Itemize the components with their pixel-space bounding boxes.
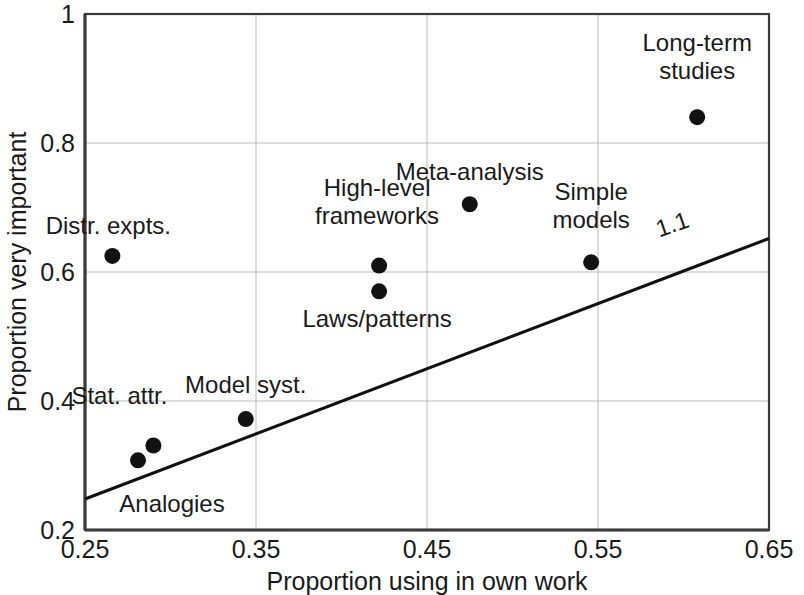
data-point-label: Stat. attr. — [71, 382, 167, 409]
gridlines — [85, 14, 769, 530]
y-tick-label: 0.2 — [40, 516, 75, 544]
y-tick-label: 1 — [61, 0, 75, 28]
data-point — [583, 254, 599, 270]
data-point — [238, 411, 254, 427]
x-tick-label: 0.55 — [574, 535, 623, 563]
chart-figure: 1.1 Distr. expts.High-levelframeworksLaw… — [0, 0, 804, 595]
data-point — [104, 248, 120, 264]
x-tick-label: 0.45 — [403, 535, 452, 563]
y-tick-label: 0.4 — [40, 387, 75, 415]
data-point-label: Analogies — [119, 490, 224, 517]
data-point-label: Long-termstudies — [642, 29, 751, 84]
y-tick-label: 0.6 — [40, 258, 75, 286]
data-point-label: Laws/patterns — [302, 305, 451, 332]
data-point-label: Distr. expts. — [46, 212, 171, 239]
data-point — [689, 109, 705, 125]
y-tick-label: 0.8 — [40, 129, 75, 157]
trendline-label: 1.1 — [652, 206, 692, 242]
x-axis-title: Proportion using in own work — [267, 567, 588, 595]
y-axis-title: Proportion very important — [3, 132, 31, 413]
data-point-label: Model syst. — [185, 371, 306, 398]
data-point — [462, 196, 478, 212]
data-point — [371, 258, 387, 274]
data-points-group: Distr. expts.High-levelframeworksLaws/pa… — [46, 29, 752, 517]
x-tick-label: 0.35 — [232, 535, 281, 563]
data-point — [371, 283, 387, 299]
x-tick-label: 0.65 — [745, 535, 794, 563]
data-point — [130, 452, 146, 468]
x-tick-labels: 0.250.350.450.550.65 — [61, 535, 794, 563]
scatter-plot: 1.1 Distr. expts.High-levelframeworksLaw… — [0, 0, 804, 595]
data-point — [145, 438, 161, 454]
data-point-label: Simplemodels — [552, 178, 629, 233]
y-tick-labels: 0.20.40.60.81 — [40, 0, 75, 544]
data-point-label: Meta-analysis — [396, 158, 544, 185]
